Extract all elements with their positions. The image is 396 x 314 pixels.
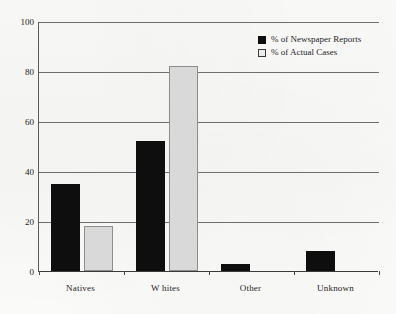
x-axis-tick: [294, 271, 295, 275]
legend-label: % of Newspaper Reports: [271, 35, 361, 44]
y-axis-tick-label: 100: [21, 18, 35, 27]
y-axis-tick-label: 60: [25, 118, 34, 127]
x-axis-tick: [379, 271, 380, 275]
x-axis-category-label: Unknown: [317, 284, 354, 293]
chart-legend: % of Newspaper Reports % of Actual Cases: [258, 34, 361, 60]
y-axis-tick-label: 40: [25, 168, 34, 177]
y-axis-tick-label: 80: [25, 68, 34, 77]
bar-natives-series1: [51, 184, 80, 272]
legend-label: % of Actual Cases: [271, 48, 337, 57]
gridline: [39, 172, 379, 173]
x-axis-category-label: Natives: [66, 284, 95, 293]
bar-other-series1: [221, 264, 250, 272]
legend-item: % of Actual Cases: [258, 47, 361, 58]
gridline: [39, 122, 379, 123]
x-axis-tick: [39, 271, 40, 275]
x-axis-category-label: Other: [240, 284, 262, 293]
bar-whites-series1: [136, 141, 165, 271]
gridline: [39, 72, 379, 73]
y-axis-tick-label: 20: [25, 218, 34, 227]
legend-swatch-open-square-icon: [258, 49, 266, 57]
grouped-bar-chart: 020406080100 % of Newspaper Reports % of…: [0, 0, 396, 314]
bar-whites-series2: [169, 66, 198, 271]
legend-item: % of Newspaper Reports: [258, 34, 361, 45]
gridline: [39, 222, 379, 223]
gridline: [39, 22, 379, 23]
legend-swatch-filled-square-icon: [258, 36, 266, 44]
bar-natives-series2: [84, 226, 113, 271]
x-axis-tick: [209, 271, 210, 275]
x-axis-category-label: W hites: [151, 284, 180, 293]
bar-unknown-series1: [306, 251, 335, 271]
x-axis-tick: [124, 271, 125, 275]
y-axis-tick-label: 0: [30, 268, 35, 277]
